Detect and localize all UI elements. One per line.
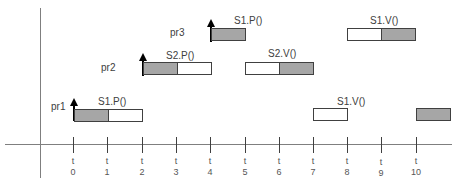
op-label-pr3-s1v: S1.V() bbox=[370, 15, 398, 26]
tick-label-10: t10 bbox=[406, 156, 426, 178]
tick-10 bbox=[416, 137, 417, 153]
segment-pr3-s1p-gray bbox=[211, 28, 246, 41]
segment-pr1-final-gray bbox=[416, 108, 451, 121]
tick-7 bbox=[313, 137, 314, 153]
tick-label-5: t5 bbox=[235, 156, 255, 178]
segment-pr1-s1p-white bbox=[108, 109, 143, 122]
op-label-pr1-s1p: S1.P() bbox=[98, 96, 126, 107]
tick-label-0: t0 bbox=[63, 156, 83, 178]
tick-label-2: t2 bbox=[132, 156, 152, 178]
tick-2 bbox=[142, 137, 143, 153]
tick-label-9: t9 bbox=[371, 157, 391, 179]
segment-pr3-s1v-gray bbox=[381, 28, 416, 41]
process-label-pr2: pr2 bbox=[101, 62, 115, 73]
segment-pr1-s1p-gray bbox=[74, 109, 109, 122]
vertical-axis bbox=[40, 8, 41, 178]
tick-1 bbox=[107, 137, 108, 153]
op-label-pr2-s2v: S2.V() bbox=[268, 48, 296, 59]
tick-3 bbox=[176, 137, 177, 153]
arrow-up-icon bbox=[139, 53, 147, 61]
segment-pr2-s2v-white bbox=[245, 62, 280, 75]
tick-5 bbox=[245, 137, 246, 153]
segment-pr2-s2p-white bbox=[177, 62, 212, 75]
arrow-up-icon bbox=[207, 19, 215, 27]
op-label-pr2-s2p: S2.P() bbox=[166, 50, 194, 61]
tick-6 bbox=[279, 137, 280, 153]
tick-9 bbox=[381, 137, 382, 153]
segment-pr3-s1v-white bbox=[347, 28, 382, 41]
tick-8 bbox=[347, 137, 348, 153]
tick-label-8: t8 bbox=[337, 156, 357, 178]
tick-4 bbox=[210, 137, 211, 153]
process-label-pr3: pr3 bbox=[170, 27, 184, 38]
tick-0 bbox=[73, 137, 74, 153]
segment-pr2-s2v-gray bbox=[279, 62, 314, 75]
op-label-pr3-s1p: S1.P() bbox=[234, 15, 262, 26]
tick-label-1: t1 bbox=[97, 156, 117, 178]
process-label-pr1: pr1 bbox=[51, 101, 65, 112]
arrow-up-icon bbox=[70, 98, 78, 106]
segment-pr2-s2p-gray bbox=[143, 62, 178, 75]
segment-pr1-s1v-white bbox=[313, 108, 348, 121]
tick-label-4: t4 bbox=[200, 156, 220, 178]
tick-label-6: t6 bbox=[269, 156, 289, 178]
tick-label-7: t7 bbox=[303, 156, 323, 178]
tick-label-3: t3 bbox=[166, 156, 186, 178]
op-label-pr1-s1v: S1.V() bbox=[337, 96, 365, 107]
